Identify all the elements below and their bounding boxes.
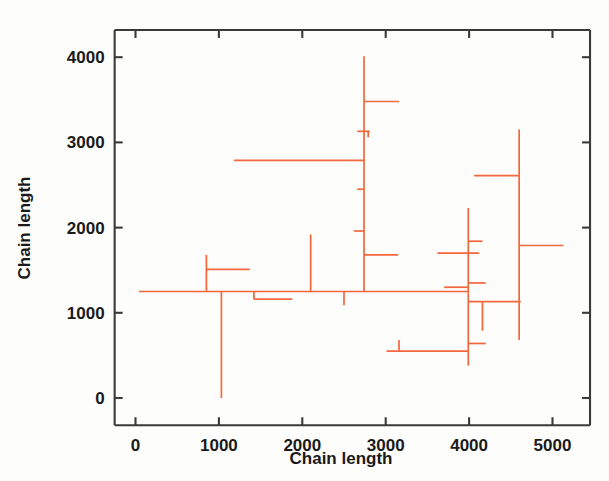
y-tick-label: 3000 [67, 133, 105, 152]
x-axis-title: Chain length [290, 449, 393, 468]
y-tick-label: 4000 [67, 48, 105, 67]
x-tick-label: 4000 [450, 436, 488, 455]
y-tick-label: 0 [95, 389, 104, 408]
chart-canvas: 01000200030004000500001000200030004000 C… [0, 0, 609, 481]
y-tick-label: 1000 [67, 304, 105, 323]
x-tick-label: 0 [131, 436, 140, 455]
y-tick-label: 2000 [67, 219, 105, 238]
x-tick-label: 5000 [534, 436, 572, 455]
x-tick-label: 1000 [200, 436, 238, 455]
chart-figure: 01000200030004000500001000200030004000 C… [0, 0, 609, 481]
plot-background [0, 0, 609, 481]
y-axis-title: Chain length [15, 177, 34, 280]
